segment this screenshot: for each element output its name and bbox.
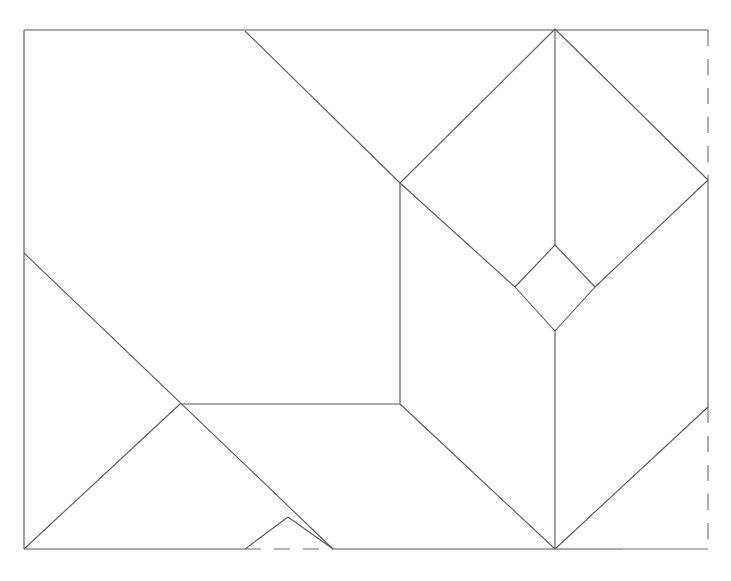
crease-right-diamond-upper	[595, 180, 708, 287]
crease-small-tri-left	[245, 517, 288, 549]
segment-layer	[24, 29, 708, 549]
crease-diamond-bottom-left	[515, 287, 555, 331]
crease-diamond-top-right	[555, 245, 595, 287]
crease-small-tri-right	[288, 517, 333, 549]
crease-top-left-diagonal	[245, 31, 400, 183]
crease-apex-left-fold	[400, 29, 555, 183]
crease-right-lower-fold	[555, 407, 708, 549]
crease-left-edge-diagonal	[24, 253, 333, 549]
crease-bottomleft-diagonal	[24, 404, 180, 549]
crease-pattern-figure	[0, 0, 731, 581]
crease-apex-right-fold	[555, 29, 708, 180]
crease-diamond-top-left	[515, 245, 555, 287]
crease-left-diamond-lower	[400, 183, 515, 287]
crease-left-lower-fold	[400, 404, 555, 549]
crease-diamond-bottom-right	[555, 287, 595, 331]
diagram-canvas	[0, 0, 731, 581]
